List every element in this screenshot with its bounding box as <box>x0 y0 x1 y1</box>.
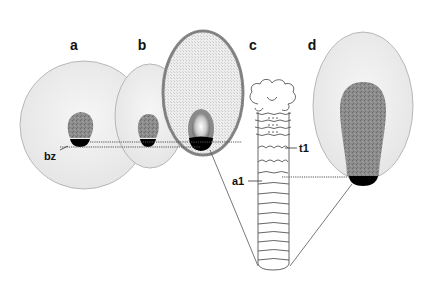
projection-lines <box>210 150 352 266</box>
germ-anlage-c <box>188 109 214 151</box>
egg-d <box>313 32 413 186</box>
panel-label-d: d <box>308 37 317 53</box>
annotation-a1: a1 <box>232 175 262 187</box>
panel-label-a: a <box>70 37 78 53</box>
embryo-development-diagram: a b c d <box>0 0 434 288</box>
svg-text:bz: bz <box>44 150 57 162</box>
panel-label-c: c <box>249 37 257 53</box>
segmented-embryo <box>250 79 295 270</box>
panel-label-b: b <box>138 37 147 53</box>
svg-text:a1: a1 <box>232 175 244 187</box>
svg-text:t1: t1 <box>299 142 309 154</box>
